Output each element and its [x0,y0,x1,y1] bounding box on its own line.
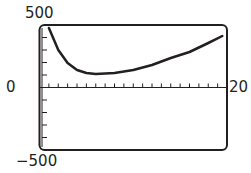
plot-area [0,0,251,173]
x-axis-ticks [49,84,227,88]
data-curve [49,28,222,74]
